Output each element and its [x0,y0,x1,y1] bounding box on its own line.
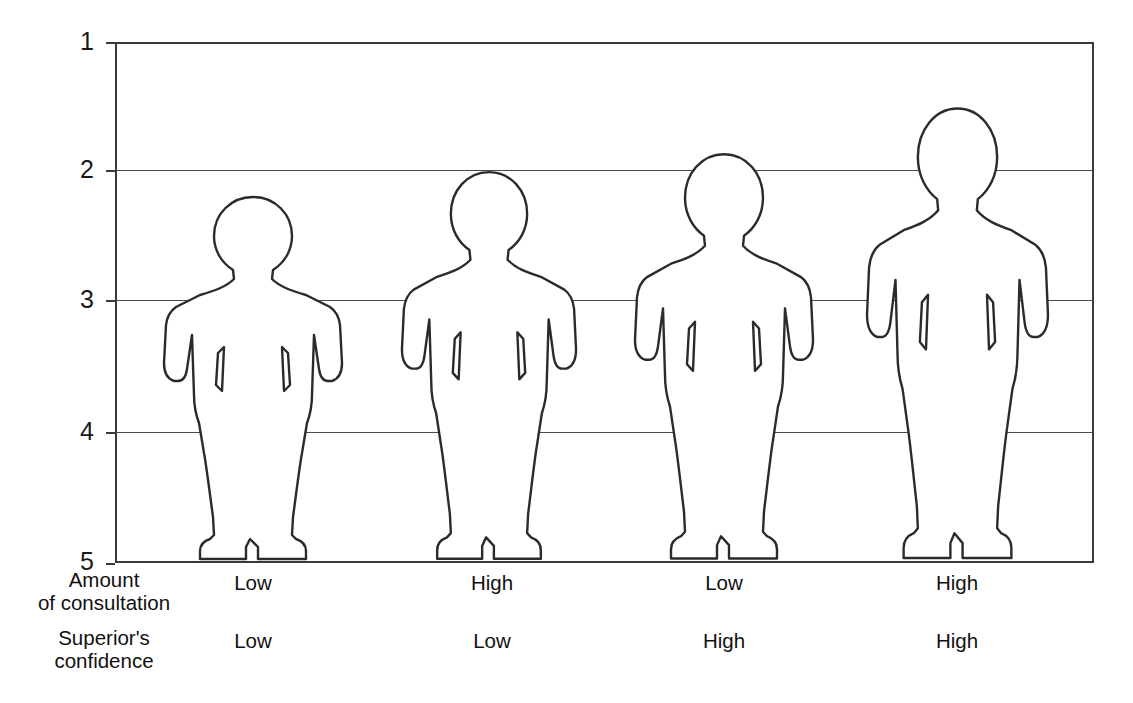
row-title-line-2: confidence [0,649,208,672]
figure-silhouette-icon [400,170,578,563]
pictogram-figure-4 [865,106,1050,563]
y-axis-tick-label-1: 1 [54,29,94,54]
cell-confidence-3: High [644,629,804,652]
y-tick-5 [106,563,115,565]
row-title-line-2: of consultation [0,591,208,614]
pictogram-figure-2 [400,170,578,563]
category-label-table: Amount of consultation Low High Low High… [0,566,1133,678]
y-axis-line [115,42,117,563]
figure-silhouette-icon [865,106,1050,563]
label-row-superiors-confidence: Superior's confidence Low Low High High [0,622,1133,678]
y-axis-tick-label-3: 3 [54,287,94,312]
pictogram-figure-3 [633,152,815,563]
y-axis-tick-label-4: 4 [54,419,94,444]
cell-consultation-2: High [412,571,572,594]
y-tick-4 [106,432,115,434]
y-tick-3 [106,300,115,302]
y-tick-2 [106,170,115,172]
pictogram-figure-1 [162,195,344,563]
pictogram-chart: 1 2 3 4 5 [0,0,1133,703]
cell-confidence-1: Low [173,629,333,652]
cell-consultation-1: Low [173,571,333,594]
label-row-amount-of-consultation: Amount of consultation Low High Low High [0,566,1133,622]
figure-silhouette-icon [633,152,815,563]
figure-silhouette-icon [162,195,344,563]
cell-confidence-2: Low [412,629,572,652]
cell-consultation-4: High [877,571,1037,594]
cell-confidence-4: High [877,629,1037,652]
cell-consultation-3: Low [644,571,804,594]
y-axis-tick-label-2: 2 [54,157,94,182]
y-tick-1 [106,42,115,44]
